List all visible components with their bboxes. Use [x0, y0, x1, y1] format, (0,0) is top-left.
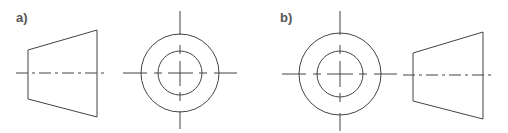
technical-drawing: a) b) — [0, 0, 508, 133]
panel-b-side-view — [403, 32, 494, 119]
panel-a-end-view — [123, 11, 237, 129]
panel-a-side-view — [16, 30, 107, 117]
panel-b: b) — [280, 10, 494, 131]
panel-a: a) — [16, 10, 237, 129]
panel-b-end-view — [282, 11, 397, 131]
panel-b-label: b) — [280, 10, 292, 25]
panel-a-label: a) — [16, 10, 28, 25]
